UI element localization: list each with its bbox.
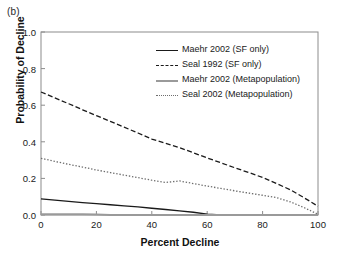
y-tick-label: 0.2 [8,173,36,184]
chart-legend: Maehr 2002 (SF only)Seal 1992 (SF only)M… [156,42,316,102]
x-tick-label: 0 [26,219,56,230]
y-tick-label: 0.4 [8,136,36,147]
legend-swatch-icon [156,75,178,85]
legend-swatch-icon [156,90,178,100]
y-tick-label: 0.6 [8,100,36,111]
legend-swatch-icon [156,60,178,70]
x-tick-labels: 020406080100 [0,219,339,235]
legend-label: Maehr 2002 (Metapopulation) [182,75,300,84]
series-line-3 [41,214,318,215]
x-tick-label: 40 [137,219,167,230]
legend-label: Seal 1992 (SF only) [182,60,262,69]
x-axis-title: Percent Decline [41,236,319,248]
series-line-4 [41,158,318,214]
x-tick-label: 20 [81,219,111,230]
legend-item-1: Maehr 2002 (SF only) [156,42,316,57]
y-tick-label: 1.0 [8,27,36,38]
legend-label: Maehr 2002 (SF only) [182,45,269,54]
x-tick-label: 80 [248,219,278,230]
legend-item-3: Maehr 2002 (Metapopulation) [156,72,316,87]
legend-item-2: Seal 1992 (SF only) [156,57,316,72]
series-line-1 [41,199,318,215]
series-line-2 [41,92,318,206]
x-tick-label: 100 [303,219,333,230]
x-tick-label: 60 [192,219,222,230]
legend-item-4: Seal 2002 (Metapopulation) [156,87,316,102]
legend-swatch-icon [156,45,178,55]
figure-panel-b: (b) Probability of Decline Percent Decli… [0,0,339,258]
legend-label: Seal 2002 (Metapopulation) [182,90,293,99]
y-tick-label: 0.8 [8,63,36,74]
